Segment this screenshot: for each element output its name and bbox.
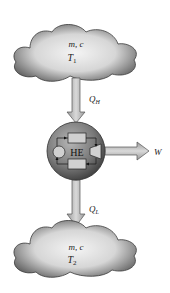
bottom-reservoir-mc: m, c	[69, 242, 84, 252]
engine-component-bottom	[68, 159, 86, 169]
engine-label: HE	[70, 147, 83, 158]
heat-in-label: QH	[89, 94, 101, 105]
top-reservoir-cloud	[14, 25, 136, 82]
work-arrow	[105, 142, 149, 160]
top-reservoir-mc: m, c	[69, 39, 84, 49]
work-label: W	[154, 147, 163, 157]
heat-in-arrow	[67, 78, 85, 123]
engine-component-top	[68, 133, 86, 143]
heat-engine-diagram: m, c T1 QH W QL HE m, c	[0, 0, 170, 293]
pump-icon	[53, 146, 65, 158]
heat-out-arrow	[67, 180, 85, 226]
heat-out-label: QL	[89, 204, 100, 215]
